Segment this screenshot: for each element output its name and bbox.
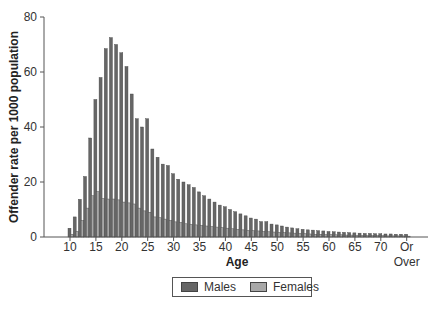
- male-bar: [68, 228, 71, 237]
- y-tick-label: 60: [24, 65, 38, 79]
- females-swatch: [250, 282, 267, 292]
- x-tick-label: 65: [348, 240, 362, 254]
- male-bar: [223, 207, 226, 237]
- male-bar: [337, 232, 340, 237]
- x-tick-label: 40: [219, 240, 233, 254]
- male-bar: [78, 199, 81, 237]
- y-tick-label: 80: [24, 10, 38, 24]
- male-bar: [332, 232, 335, 237]
- x-tick-label: 15: [89, 240, 103, 254]
- male-bar: [311, 230, 314, 237]
- male-bar: [234, 212, 237, 237]
- legend-item-females: Females: [250, 280, 319, 294]
- male-bar: [135, 119, 138, 237]
- male-bar: [141, 127, 144, 237]
- male-bar: [229, 210, 232, 238]
- y-tick-label: 0: [30, 230, 37, 244]
- male-bar: [358, 233, 361, 237]
- male-bar: [146, 119, 149, 237]
- male-bar: [353, 233, 356, 237]
- legend-label-females: Females: [273, 280, 319, 294]
- x-tick-label: 45: [245, 240, 259, 254]
- male-bar: [249, 218, 252, 237]
- y-axis-title: Offender rate per 1000 population: [7, 31, 21, 223]
- x-tick-label: 70: [374, 240, 388, 254]
- legend-label-males: Males: [204, 280, 236, 294]
- male-bar: [198, 192, 201, 237]
- male-bar: [166, 166, 169, 238]
- male-bar: [208, 199, 211, 237]
- male-bar: [130, 94, 133, 237]
- male-bar: [270, 224, 273, 237]
- male-bar: [239, 214, 242, 237]
- male-bar: [244, 216, 247, 237]
- male-bar: [291, 228, 294, 237]
- male-bar: [187, 185, 190, 237]
- male-bar: [156, 157, 159, 237]
- legend-item-males: Males: [181, 280, 236, 294]
- y-tick-label: 40: [24, 120, 38, 134]
- x-axis-title: Age: [226, 255, 249, 269]
- x-tick-label: Or: [400, 240, 413, 254]
- x-tick-label: 50: [271, 240, 285, 254]
- x-tick-label: 35: [193, 240, 207, 254]
- x-tick-label: 60: [322, 240, 336, 254]
- bars: [68, 38, 410, 237]
- male-bar: [203, 196, 206, 237]
- x-tick-label: 25: [141, 240, 155, 254]
- x-tick-label: Over: [394, 255, 420, 269]
- male-bar: [254, 219, 257, 237]
- x-tick-label: 30: [167, 240, 181, 254]
- males-swatch: [181, 282, 198, 292]
- y-axis: 020406080: [24, 10, 44, 244]
- legend: Males Females: [172, 277, 312, 297]
- male-bar: [213, 202, 216, 237]
- y-tick-label: 20: [24, 175, 38, 189]
- x-tick-label: 10: [63, 240, 77, 254]
- bar-chart: 020406080 10152025303540455055606570OrOv…: [0, 0, 436, 275]
- male-bar: [177, 179, 180, 237]
- x-tick-label: 20: [115, 240, 129, 254]
- x-tick-label: 55: [296, 240, 310, 254]
- male-bar: [265, 222, 268, 237]
- male-bar: [73, 217, 76, 237]
- male-bar: [218, 205, 221, 237]
